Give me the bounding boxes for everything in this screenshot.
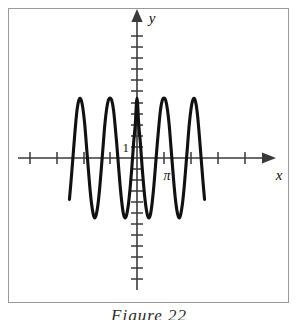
y-axis-arrow-icon (131, 9, 142, 22)
plot-graphic: x y 1 π (0, 0, 298, 320)
x-axis-tick-label-pi: π (163, 168, 171, 183)
y-axis-tick-label-one: 1 (123, 140, 130, 155)
axes-group (18, 9, 276, 290)
x-axis-arrow-icon (262, 152, 276, 163)
figure-caption: Figure 22 (0, 306, 298, 320)
y-axis-label: y (147, 10, 156, 26)
figure-container: x y 1 π Figure 22 (0, 0, 298, 320)
x-axis-label: x (275, 167, 283, 183)
